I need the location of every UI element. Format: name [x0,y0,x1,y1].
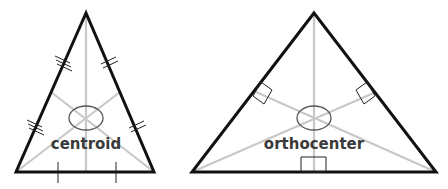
centroid-diagram: centroid [16,13,154,183]
centroid-label: centroid [51,135,122,153]
orthocenter-label: orthocenter [264,135,365,153]
right-side-double-ticks [101,57,146,132]
triangle-centers-diagram: centroid orthocenter [0,0,448,189]
orthocenter-diagram: orthocenter [192,13,436,172]
